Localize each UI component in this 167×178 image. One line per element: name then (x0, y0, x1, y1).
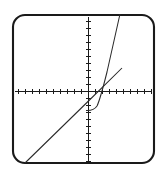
graph-figure: Graphing calculator plot of a line and a… (0, 0, 167, 178)
calculator-screen-frame (13, 15, 154, 163)
graph-canvas (0, 0, 167, 178)
